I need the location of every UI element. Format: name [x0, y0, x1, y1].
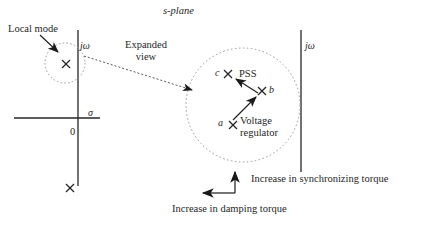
pole-b-label: b [269, 84, 274, 95]
pole-a-marker [229, 121, 237, 129]
diagram-canvas [0, 0, 425, 226]
voltage-regulator-label-line2: regulator [240, 127, 302, 139]
pole-c-marker [224, 70, 232, 78]
figure-root: s-plane Local mode jω jω Expanded view σ… [0, 0, 425, 226]
local-mode-pole-marker [62, 60, 70, 68]
pole-c-label: c [215, 67, 219, 78]
pss-arrow [236, 79, 258, 93]
expanded-view-label-line2: view [117, 51, 175, 63]
figure-title: s-plane [163, 5, 194, 17]
local-mode-label: Local mode [8, 23, 58, 35]
pss-label: PSS [239, 68, 257, 80]
right-jomega-label: jω [305, 40, 315, 51]
pole-b-marker [258, 87, 266, 95]
expanded-view-label-line1: Expanded [117, 39, 175, 51]
left-jomega-label: jω [80, 40, 90, 51]
damping-torque-label: Increase in damping torque [172, 203, 287, 215]
pole-a-label: a [218, 117, 223, 128]
voltage-regulator-label: Voltage regulator [240, 115, 302, 140]
synchronizing-torque-label: Increase in synchronizing torque [251, 173, 388, 185]
expanded-view-circle [186, 48, 300, 162]
lower-pole-marker [66, 184, 74, 192]
sigma-axis-label: σ [88, 107, 93, 118]
voltage-regulator-label-line1: Voltage [240, 115, 302, 127]
local-mode-callout-arrow [40, 35, 58, 52]
origin-label: 0 [70, 126, 75, 138]
expanded-view-label: Expanded view [117, 39, 175, 63]
